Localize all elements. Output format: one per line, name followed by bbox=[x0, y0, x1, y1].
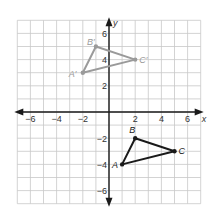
y-tick-label: −6 bbox=[97, 186, 107, 196]
vertex-point bbox=[120, 162, 124, 166]
vertex-label: A′ bbox=[68, 69, 77, 79]
y-tick-label: −2 bbox=[97, 134, 107, 144]
x-tick-label: −4 bbox=[51, 114, 61, 124]
vertex-point bbox=[81, 71, 85, 75]
x-axis-left-arrow-icon bbox=[14, 109, 23, 116]
y-tick-label: 6 bbox=[102, 29, 107, 39]
triangles: ABCA′B′C′ bbox=[68, 37, 186, 171]
vertex-point bbox=[172, 149, 176, 153]
x-tick-label: 4 bbox=[159, 114, 164, 124]
vertex-point bbox=[133, 136, 137, 140]
vertex-label: C bbox=[179, 146, 186, 156]
y-tick-label: 4 bbox=[102, 55, 107, 65]
x-tick-label: 2 bbox=[133, 114, 138, 124]
vertex-point bbox=[133, 57, 137, 61]
y-tick-label: −4 bbox=[97, 160, 107, 170]
x-tick-label: 6 bbox=[185, 114, 190, 124]
y-axis-up-arrow-icon bbox=[106, 17, 113, 26]
vertex-label: C′ bbox=[139, 55, 147, 65]
vertex-label: B bbox=[129, 125, 135, 135]
y-axis-label: y bbox=[112, 18, 118, 28]
vertex-label: A bbox=[111, 160, 118, 170]
y-tick-label: 2 bbox=[102, 81, 107, 91]
x-tick-label: −6 bbox=[25, 114, 35, 124]
x-tick-label: −2 bbox=[78, 114, 88, 124]
y-axis-down-arrow-icon bbox=[106, 198, 113, 207]
x-axis-label: x bbox=[201, 114, 207, 124]
vertex-label: B′ bbox=[87, 37, 95, 47]
coordinate-plane: xy −6−4−2246642−2−4−6 ABCA′B′C′ bbox=[0, 0, 212, 222]
